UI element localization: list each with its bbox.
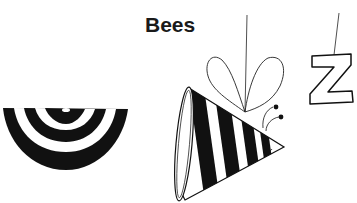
bee-eye [264, 139, 268, 143]
letter-z [310, 54, 353, 104]
striped-semicircle [3, 108, 128, 170]
cone-bee [171, 80, 284, 203]
bee-string [245, 15, 247, 112]
z-string [334, 13, 339, 55]
illustration [0, 0, 357, 203]
bee-antenna [266, 117, 279, 131]
